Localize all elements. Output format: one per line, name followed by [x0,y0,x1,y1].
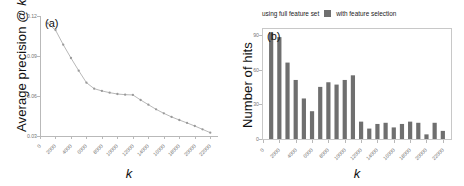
panel-a-x-tick-mark [102,136,103,139]
panel-b-y-tick-mark [259,139,262,140]
panel-b-x-tick-mark [279,140,280,143]
panel-a-y-tick-label: 0.06 [16,93,37,99]
panel-a-data-point [116,93,118,95]
panel-b-y-tick-label: 30 [238,101,259,107]
panel-b-bar [302,98,306,139]
legend-swatch-icon [324,10,331,17]
panel-a-data-point [109,92,111,94]
panel-b-y-axis-label: Number of hits [240,42,255,128]
panel-a-x-tick-mark [117,136,118,139]
panel-a-data-point [139,99,141,101]
panel-a-data-point [62,44,64,46]
panel-a-x-tick-mark [210,136,211,139]
panel-a-data-point [93,88,95,90]
panel-b-x-tick-mark [328,140,329,143]
panel-b-y-tick-label: 60 [238,67,259,73]
panel-a-x-tick-mark [195,136,196,139]
panel-a-y-tick-label: 0.12 [16,13,37,19]
panel-b-x-tick-mark [296,140,297,143]
panel-b-x-axis-label: k [262,166,452,181]
panel-a-data-point [54,29,56,31]
panel-a-data-point [85,82,87,84]
panel-a-x-tick-mark [133,136,134,139]
panel-a-x-tick-mark [164,136,165,139]
panel-b-bar [334,85,338,139]
panel-b-y-tick-label: 90 [238,32,259,38]
panel-b-bar [269,32,273,139]
panel-a-data-point [201,128,203,130]
panel-b-x-tick-mark [361,140,362,143]
panel-b-bar [367,129,371,139]
panel-a-y-axis-label: Average precision @ k [14,0,29,132]
panel-a-data-point [132,94,134,96]
panel-b-bar [384,123,388,139]
panel-b-bar [285,63,289,139]
panel-b-bar [359,122,363,139]
panel-b-bar [424,134,428,139]
panel-a-x-tick-mark [55,136,56,139]
panel-b-bar [294,80,298,139]
panel-b-x-tick-mark [345,140,346,143]
panel-a-data-point [170,116,172,118]
panel-b-bar [351,75,355,139]
panel-b-x-tick-mark [426,140,427,143]
panel-a-x-axis-line [40,136,218,137]
panel-b-bar [343,80,347,139]
panel-a-data-point [178,119,180,121]
panel-a-data-point [78,70,80,72]
panel-b-tag: (b) [267,30,280,42]
panel-b-bar [326,82,330,139]
panel-b-bar [441,131,445,139]
legend-label-feature-selection: with feature selection [336,10,396,17]
panel-a-line-series [40,16,218,136]
panel-a-data-point [101,90,103,92]
panel-b-x-tick-mark [312,140,313,143]
panel-b-bar-series [263,29,451,139]
panel-b-bar [375,124,379,139]
panel-a-data-point [147,104,149,106]
panel-b-bar [310,111,314,139]
panel-a-data-point [186,122,188,124]
panel-a-x-tick-mark [40,136,41,139]
panel-b-bar [408,122,412,139]
legend-label-full-feature-set: using full feature set [262,10,319,17]
panel-b-x-tick-mark [394,140,395,143]
panel-b-y-tick-mark [259,104,262,105]
panel-a-data-point [155,108,157,110]
panel-a-data-point [209,132,211,134]
panel-b-y-tick-label: 0 [238,136,259,142]
panel-a-data-point [70,57,72,59]
figure-container: Average precision @ k (a) using full fea… [0,0,464,186]
panel-b-bar [318,87,322,139]
panel-b: Number of hits (b) using full feature se… [232,0,464,186]
panel-a-data-point [124,94,126,96]
panel-a-data-point [194,125,196,127]
panel-b-x-tick-mark [377,140,378,143]
panel-a-x-tick-mark [148,136,149,139]
panel-a-x-tick-mark [179,136,180,139]
panel-b-y-tick-mark [259,35,262,36]
panel-a-x-axis-label: k [40,166,218,181]
panel-a-tag: (a) [45,17,58,29]
panel-a-y-tick-label: 0.09 [16,53,37,59]
panel-a-x-tick-mark [86,136,87,139]
panel-b-bar [433,123,437,139]
panel-a-data-point [163,112,165,114]
panel-b-y-tick-mark [259,70,262,71]
panel-a: Average precision @ k (a) using full fea… [0,0,232,186]
panel-a-x-tick-mark [71,136,72,139]
panel-b-x-tick-mark [443,140,444,143]
panel-b-bar [416,123,420,139]
panel-b-bar [392,127,396,139]
panel-b-x-tick-mark [263,140,264,143]
panel-a-series-line [48,23,211,132]
panel-b-legend: using full feature set with feature sele… [262,10,396,17]
panel-b-x-tick-mark [410,140,411,143]
panel-a-y-tick-label: 0.03 [16,133,37,139]
panel-b-bar [277,37,281,139]
panel-b-bar [400,124,404,139]
